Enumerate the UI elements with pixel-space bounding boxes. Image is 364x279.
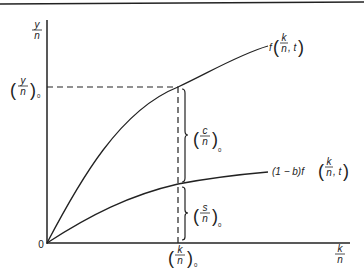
- svg-text:y: y: [34, 19, 41, 30]
- svg-text:): ): [343, 161, 349, 181]
- svg-text:0: 0: [218, 147, 222, 153]
- consumption-brace: [182, 89, 188, 182]
- svg-text:(: (: [193, 206, 199, 226]
- svg-text:0: 0: [218, 222, 222, 228]
- svg-text:n: n: [34, 30, 40, 41]
- svg-text:(: (: [10, 80, 16, 100]
- saving-curve-label: (1 − b)f ( k n , t ): [272, 156, 349, 181]
- svg-text:(: (: [168, 248, 174, 268]
- origin-label: 0: [38, 239, 44, 250]
- c0-label: ( c n ) 0: [193, 125, 222, 153]
- svg-text:k: k: [327, 156, 333, 167]
- svg-text:, t: , t: [288, 42, 298, 53]
- growth-diagram: y n k n 0 ( y n ) 0 ( k n ) 0 ( c: [0, 0, 364, 279]
- top-border: [0, 2, 364, 4]
- svg-text:n: n: [281, 43, 287, 54]
- svg-text:n: n: [20, 86, 26, 97]
- svg-text:(: (: [318, 161, 324, 181]
- y0-label: ( y n ) 0: [10, 75, 41, 100]
- s0-label: ( s n ) 0: [193, 202, 222, 228]
- k0-label: ( k n ) 0: [168, 244, 198, 268]
- svg-text:k: k: [282, 32, 288, 43]
- production-curve-label: f ( k n , t ): [269, 32, 304, 57]
- svg-text:n: n: [326, 167, 332, 178]
- svg-text:0: 0: [194, 262, 198, 268]
- svg-text:): ): [212, 129, 218, 149]
- svg-text:(: (: [273, 37, 279, 57]
- svg-text:): ): [30, 80, 36, 100]
- svg-text:): ): [187, 248, 193, 268]
- y-axis-label: y n: [32, 19, 42, 41]
- svg-text:k: k: [338, 243, 344, 254]
- svg-text:, t: , t: [333, 166, 343, 177]
- svg-text:n: n: [202, 213, 208, 224]
- svg-text:n: n: [177, 255, 183, 266]
- svg-text:0: 0: [37, 93, 41, 99]
- saving-curve: [47, 172, 268, 243]
- production-curve: [47, 46, 268, 243]
- x-axis-label: k n: [335, 243, 345, 265]
- saving-brace: [182, 187, 188, 240]
- svg-text:): ): [298, 37, 304, 57]
- svg-text:(1 − b)f: (1 − b)f: [272, 166, 305, 177]
- svg-text:(: (: [193, 129, 199, 149]
- svg-text:s: s: [203, 202, 208, 213]
- svg-text:y: y: [20, 75, 27, 86]
- svg-text:k: k: [178, 244, 184, 255]
- svg-text:c: c: [203, 125, 208, 136]
- svg-text:n: n: [337, 254, 343, 265]
- svg-text:n: n: [202, 136, 208, 147]
